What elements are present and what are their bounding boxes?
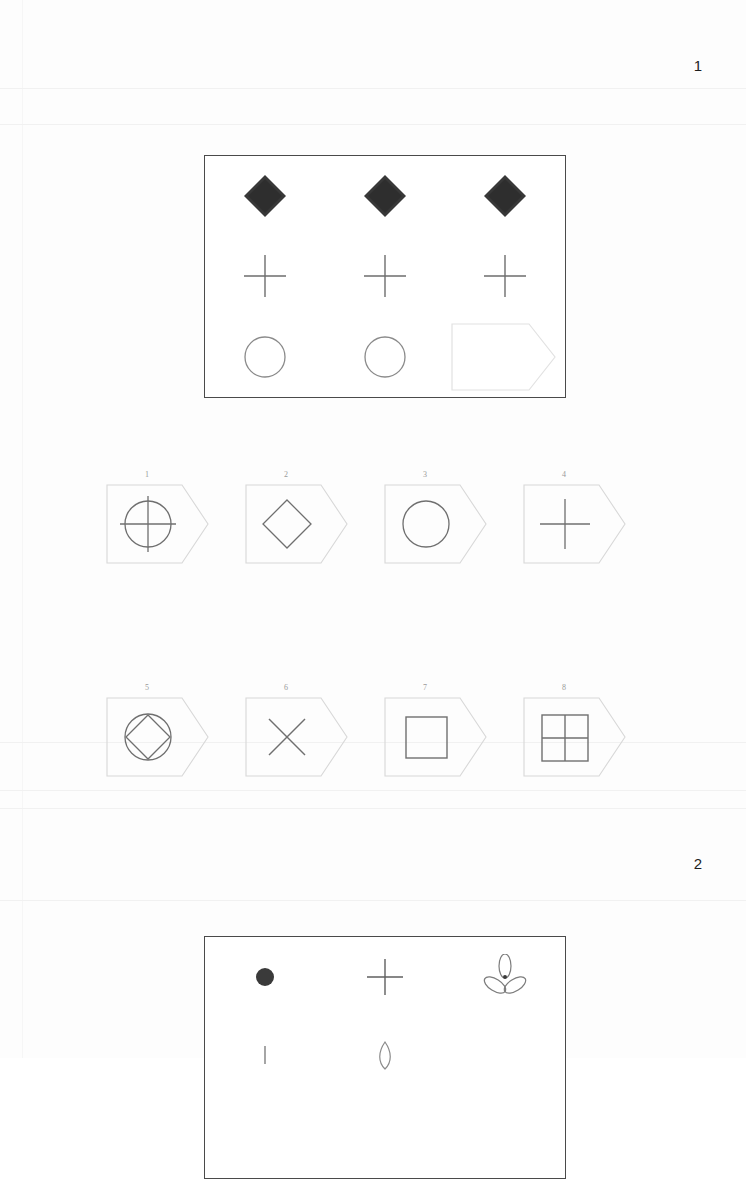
filled-dot-icon [254,966,276,988]
matrix-cell-r3c1 [205,317,325,397]
option-shape-x-cross [243,694,355,780]
filled-diamond-icon [242,173,288,219]
missing-piece-tag-icon [449,320,561,394]
matrix-cell-r2c1 [205,236,325,316]
filled-diamond-icon [362,173,408,219]
matrix-cell-p2-r2c1 [205,1017,325,1097]
page-number-2: 2 [694,855,702,872]
plus-icon [241,252,289,300]
answer-options-row-2: 5 6 7 [104,683,660,783]
option-number-2: 2 [243,470,329,480]
diamond-outline-icon [263,500,311,548]
option-shape-square-outline [382,694,494,780]
scan-rule [0,88,746,89]
matrix-cell-p2-r1c2 [325,937,445,1017]
plus-icon [481,252,529,300]
answer-options-row-1: 1 2 3 [104,470,660,570]
matrix-cell-r3c3-missing[interactable] [445,317,565,397]
petal-icon [371,1039,399,1075]
option-shape-circle-with-cross [104,481,216,567]
circle-outline-icon [241,333,289,381]
matrix-cell-r3c2 [325,317,445,397]
option-tag-outline-icon [243,694,355,780]
option-number-7: 7 [382,683,468,693]
option-number-6: 6 [243,683,329,693]
option-tag-outline-icon [521,481,633,567]
matrix-cell-p2-r3c2 [325,1098,445,1178]
scan-rule [0,808,746,809]
matrix-cell-p2-r3c3 [445,1098,565,1178]
matrix-problem-2 [204,936,566,1179]
matrix-cell-r1c2 [325,156,445,236]
option-tile-8[interactable]: 8 [521,683,633,783]
circle-outline-icon [125,714,171,760]
scan-rule [0,790,746,791]
option-shape-circle-outline [382,481,494,567]
matrix-grid-2 [205,937,565,1178]
option-shape-square-quartered [521,694,633,780]
option-shape-circle-with-diamond [104,694,216,780]
matrix-problem-1 [204,155,566,398]
square-outline-icon [406,717,447,758]
option-tile-1[interactable]: 1 [104,470,216,570]
matrix-cell-p2-r1c1 [205,937,325,1017]
matrix-cell-r2c3 [445,236,565,316]
option-tag-outline-icon [382,694,494,780]
plus-icon [361,252,409,300]
option-number-8: 8 [521,683,607,693]
option-tile-6[interactable]: 6 [243,683,355,783]
circle-outline-icon [361,333,409,381]
trefoil-icon [482,954,528,1000]
matrix-cell-p2-r2c2 [325,1017,445,1097]
circle-outline-icon [403,501,449,547]
option-shape-plus [521,481,633,567]
matrix-cell-p2-r3c1 [205,1098,325,1178]
option-number-5: 5 [104,683,190,693]
matrix-grid-1 [205,156,565,397]
scan-rule [0,900,746,901]
plus-icon [364,956,406,998]
option-tag-outline-icon [243,481,355,567]
matrix-cell-p2-r1c3 [445,937,565,1017]
filled-diamond-icon [482,173,528,219]
option-tile-2[interactable]: 2 [243,470,355,570]
option-tag-outline-icon [521,694,633,780]
option-tag-outline-icon [104,481,216,567]
matrix-cell-r1c1 [205,156,325,236]
option-tile-4[interactable]: 4 [521,470,633,570]
option-number-3: 3 [382,470,468,480]
option-shape-diamond-outline [243,481,355,567]
matrix-cell-r2c2 [325,236,445,316]
option-tile-7[interactable]: 7 [382,683,494,783]
option-number-1: 1 [104,470,190,480]
matrix-cell-p2-r2c3 [445,1017,565,1097]
inscribed-diamond-icon [126,715,170,759]
small-mark-icon [255,1042,275,1072]
option-tile-3[interactable]: 3 [382,470,494,570]
option-number-4: 4 [521,470,607,480]
option-tag-outline-icon [104,694,216,780]
option-tag-outline-icon [382,481,494,567]
page-number-1: 1 [694,57,702,74]
matrix-cell-r1c3 [445,156,565,236]
option-tile-5[interactable]: 5 [104,683,216,783]
scan-rule [0,124,746,125]
